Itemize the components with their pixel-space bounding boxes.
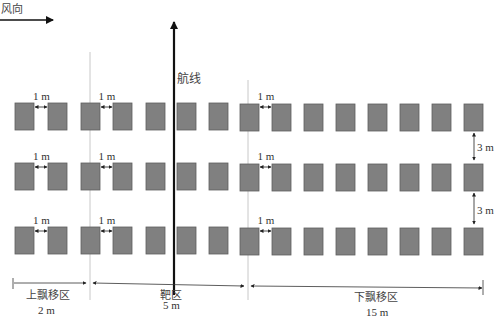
- zone-downwind-name: 下飘移区: [354, 292, 398, 304]
- flight-line-label: 航线: [177, 73, 201, 85]
- row-gap-label-2: 3 m: [477, 204, 494, 216]
- plot-r2-c3: [81, 163, 100, 190]
- plot-r2-c9: [272, 164, 291, 191]
- zone-dim-target: [93, 283, 244, 286]
- plot-r2-c13: [400, 164, 419, 191]
- plot-r1-c3: [81, 103, 100, 130]
- plot-r1-c15: [464, 104, 483, 131]
- plot-r3-c1: [15, 227, 34, 254]
- gap-label: 1 m: [99, 214, 116, 226]
- plot-r3-c14: [432, 228, 451, 255]
- wind-direction-label: 风向: [1, 4, 23, 16]
- plot-r2-c10: [304, 164, 323, 191]
- plot-r2-c1: [15, 163, 34, 190]
- plot-r2-c6: [177, 163, 196, 190]
- plot-r2-c2: [48, 163, 67, 190]
- plot-r3-c8: [240, 228, 259, 255]
- plot-r2-c7: [209, 163, 228, 190]
- gap-label: 1 m: [258, 214, 275, 226]
- plot-r1-c6: [177, 103, 196, 130]
- zone-upwind-name: 上飘移区: [26, 290, 70, 302]
- plot-r1-c1: [15, 103, 34, 130]
- gap-label: 1 m: [33, 214, 50, 226]
- diagram-canvas: 风向 航线 1 m1 m1 m1 m1 m1 m1 m1 m1 m 3 m 3 …: [0, 0, 496, 325]
- plot-r1-c9: [272, 104, 291, 131]
- plot-r3-c4: [113, 227, 132, 254]
- plot-r2-c14: [432, 164, 451, 191]
- plot-r3-c11: [336, 228, 355, 255]
- plot-r1-c4: [113, 103, 132, 130]
- gap-label: 1 m: [99, 90, 116, 102]
- plot-r1-c14: [432, 104, 451, 131]
- plot-r1-c2: [48, 103, 67, 130]
- zone-dim-downwind: [251, 286, 482, 288]
- plot-r3-c5: [146, 227, 165, 254]
- plot-r2-c11: [336, 164, 355, 191]
- gap-label: 1 m: [33, 150, 50, 162]
- plot-r1-c12: [368, 104, 387, 131]
- plot-r3-c6: [177, 227, 196, 254]
- plot-r2-c8: [240, 164, 259, 191]
- row-gap-label-1: 3 m: [477, 141, 494, 153]
- gap-label: 1 m: [258, 150, 275, 162]
- plot-r2-c5: [146, 163, 165, 190]
- plot-r1-c13: [400, 104, 419, 131]
- gap-label: 1 m: [258, 90, 275, 102]
- plot-r1-c8: [240, 104, 259, 131]
- gap-label: 1 m: [99, 150, 116, 162]
- plot-r1-c10: [304, 104, 323, 131]
- zone-downwind-distance: 15 m: [366, 306, 388, 318]
- gap-label: 1 m: [33, 90, 50, 102]
- plot-r3-c10: [304, 228, 323, 255]
- plot-layout-svg: [0, 0, 496, 325]
- plot-r1-c5: [146, 103, 165, 130]
- zone-target-distance: 5 m: [163, 299, 180, 311]
- plot-r3-c3: [81, 227, 100, 254]
- plot-r3-c15: [464, 228, 483, 255]
- plot-r3-c13: [400, 228, 419, 255]
- plot-r3-c2: [48, 227, 67, 254]
- plot-r3-c9: [272, 228, 291, 255]
- plot-r3-c12: [368, 228, 387, 255]
- plot-r1-c7: [209, 103, 228, 130]
- plot-r2-c12: [368, 164, 387, 191]
- plot-r1-c11: [336, 104, 355, 131]
- zone-upwind-distance: 2 m: [38, 304, 55, 316]
- plot-r2-c4: [113, 163, 132, 190]
- plot-grid: [15, 103, 483, 255]
- plot-r2-c15: [464, 164, 483, 191]
- plot-r3-c7: [209, 227, 228, 254]
